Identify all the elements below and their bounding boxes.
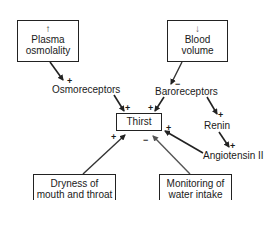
node-blood-volume: ↓ Blood volume (167, 20, 228, 62)
sign-blood-baroreceptors: − (175, 80, 180, 89)
node-label-line1: Blood (168, 34, 227, 45)
node-label-line1: Plasma (18, 34, 78, 45)
node-label: Thirst (127, 116, 152, 127)
node-label-line1: Monitoring of (160, 178, 231, 189)
sign-angiotensin-thirst: + (166, 124, 171, 133)
sign-plasma-osmoreceptors: + (67, 77, 72, 86)
arrow-renin-angiotensin (219, 132, 229, 147)
node-plasma-osmolality: ↑ Plasma osmolality (17, 20, 79, 62)
arrow-plasma-osmoreceptors (50, 62, 63, 80)
arrow-angiotensin-thirst (165, 131, 203, 153)
node-label-line2: volume (168, 45, 227, 56)
node-angiotensin-ii: Angiotensin II (203, 150, 264, 161)
arrow-baroreceptors-thirst (155, 97, 164, 111)
sign-osmoreceptors-thirst: + (125, 104, 130, 113)
sign-monitoring-thirst: − (143, 136, 148, 145)
down-arrow-icon: ↓ (168, 24, 227, 34)
sign-renin-angiotensin: + (230, 142, 235, 151)
sign-baroreceptors-renin: + (218, 111, 223, 120)
node-label-line2: mouth and throat (34, 189, 115, 200)
node-label-line2: water intake (160, 189, 231, 200)
node-osmoreceptors: Osmoreceptors (52, 84, 120, 95)
arrow-baroreceptors-renin (207, 97, 217, 114)
node-renin: Renin (204, 120, 230, 131)
up-arrow-icon: ↑ (18, 24, 78, 34)
node-monitoring: Monitoring of water intake (159, 174, 232, 200)
node-label-line2: osmolality (18, 45, 78, 56)
arrow-osmoreceptors-thirst (114, 95, 124, 111)
node-baroreceptors: Baroreceptors (155, 86, 218, 97)
node-label-line1: Dryness of (34, 178, 115, 189)
arrow-dryness-thirst (83, 135, 125, 174)
node-dryness: Dryness of mouth and throat (33, 174, 116, 200)
node-thirst: Thirst (116, 113, 162, 131)
sign-baroreceptors-thirst: + (148, 104, 153, 113)
sign-dryness-thirst: + (111, 133, 116, 142)
